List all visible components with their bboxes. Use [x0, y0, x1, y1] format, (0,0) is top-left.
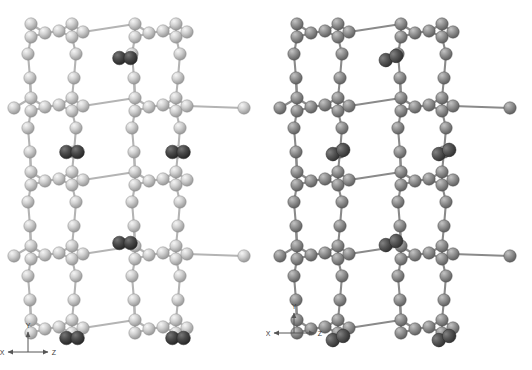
- framework-atom: [53, 247, 65, 259]
- framework-atom: [66, 31, 78, 43]
- framework-atom: [157, 321, 169, 333]
- framework-atom: [394, 72, 406, 84]
- framework-atom: [157, 247, 169, 259]
- framework-atom: [238, 102, 250, 114]
- framework-atom: [129, 18, 141, 30]
- framework-atom: [25, 240, 37, 252]
- framework-atom: [53, 25, 65, 37]
- framework-atom: [70, 270, 82, 282]
- framework-atom: [174, 196, 186, 208]
- structure-panel-right: YXZ: [266, 0, 532, 370]
- framework-atom: [25, 18, 37, 30]
- framework-atom: [343, 100, 355, 112]
- framework-atom: [172, 220, 184, 232]
- framework-atom: [336, 48, 348, 60]
- framework-atom: [436, 314, 448, 326]
- framework-atom: [181, 174, 193, 186]
- framework-atom: [129, 327, 141, 339]
- framework-atom: [238, 250, 250, 262]
- framework-atom: [395, 314, 407, 326]
- framework-atom: [172, 72, 184, 84]
- framework-atom: [70, 48, 82, 60]
- framework-atom: [25, 179, 37, 191]
- framework-atom: [66, 240, 78, 252]
- framework-atom: [170, 166, 182, 178]
- framework-atom: [409, 175, 421, 187]
- framework-atom: [291, 31, 303, 43]
- framework-atom: [25, 31, 37, 43]
- axis-label-z: Z: [318, 330, 323, 337]
- framework-atom: [174, 122, 186, 134]
- axis-label-y: Y: [26, 322, 31, 329]
- framework-atom: [395, 31, 407, 43]
- framework-atom: [392, 270, 404, 282]
- framework-atom: [436, 253, 448, 265]
- framework-atom: [436, 240, 448, 252]
- framework-atom: [128, 294, 140, 306]
- guest-atom: [71, 145, 85, 159]
- framework-atom: [174, 270, 186, 282]
- framework-atom: [157, 173, 169, 185]
- framework-atom: [170, 92, 182, 104]
- framework-atom: [129, 92, 141, 104]
- guest-atom: [177, 331, 191, 345]
- framework-atom: [70, 196, 82, 208]
- framework-atom: [423, 247, 435, 259]
- framework-atom: [440, 196, 452, 208]
- framework-atom: [288, 270, 300, 282]
- framework-atom: [343, 174, 355, 186]
- framework-atom: [174, 48, 186, 60]
- framework-atom: [395, 166, 407, 178]
- framework-atom: [305, 249, 317, 261]
- framework-atom: [53, 173, 65, 185]
- framework-atom: [77, 100, 89, 112]
- framework-atom: [291, 92, 303, 104]
- framework-atom: [66, 92, 78, 104]
- framework-atom: [423, 321, 435, 333]
- framework-atom: [68, 220, 80, 232]
- framework-atom: [157, 99, 169, 111]
- structure-panel-left: YXZ: [0, 0, 266, 370]
- framework-atom: [66, 179, 78, 191]
- framework-atom: [394, 294, 406, 306]
- framework-atom: [332, 92, 344, 104]
- framework-atom: [24, 294, 36, 306]
- framework-atom: [25, 166, 37, 178]
- framework-atom: [129, 166, 141, 178]
- framework-atom: [22, 270, 34, 282]
- guest-atom: [71, 331, 85, 345]
- framework-atom: [22, 122, 34, 134]
- framework-atom: [143, 323, 155, 335]
- framework-atom: [126, 122, 138, 134]
- framework-atom: [343, 26, 355, 38]
- framework-atom: [291, 105, 303, 117]
- framework-atom: [274, 102, 286, 114]
- framework-atom: [395, 253, 407, 265]
- guest-atom: [124, 51, 138, 65]
- framework-atom: [290, 72, 302, 84]
- framework-atom: [22, 196, 34, 208]
- axis-label-x: X: [0, 349, 5, 356]
- framework-atom: [126, 196, 138, 208]
- framework-atom: [395, 179, 407, 191]
- framework-atom: [172, 294, 184, 306]
- framework-atom: [305, 175, 317, 187]
- framework-atom: [440, 270, 452, 282]
- framework-atom: [39, 175, 51, 187]
- framework-atom: [392, 122, 404, 134]
- axis-label-y: Y: [292, 303, 297, 310]
- framework-atom: [290, 220, 302, 232]
- framework-atom: [436, 105, 448, 117]
- framework-atom: [126, 270, 138, 282]
- framework-atom: [129, 314, 141, 326]
- guest-atom: [124, 236, 138, 250]
- framework-atom: [68, 294, 80, 306]
- framework-atom: [77, 248, 89, 260]
- framework-atom: [332, 314, 344, 326]
- figure-canvas: YXZ YXZ: [0, 0, 532, 370]
- framework-atom: [291, 179, 303, 191]
- framework-atom: [129, 253, 141, 265]
- framework-atom: [170, 253, 182, 265]
- framework-atom: [39, 27, 51, 39]
- framework-atom: [336, 122, 348, 134]
